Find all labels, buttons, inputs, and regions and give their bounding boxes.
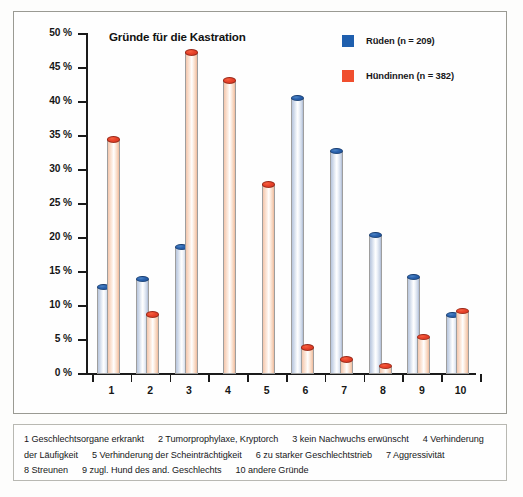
y-axis-tick (78, 67, 87, 69)
caption-item-7: 7 Aggressivität (386, 450, 444, 460)
y-axis-tick (78, 33, 87, 35)
bar-top-cap (107, 136, 120, 143)
bar-body (223, 80, 236, 374)
caption-item-4: 4 Verhinderung (423, 434, 484, 444)
x-axis-tick (92, 374, 94, 382)
caption-line-3: 8 Streunen9 zugl. Hund des and. Geschlec… (24, 463, 496, 479)
x-axis-label: 1 (96, 384, 126, 396)
legend-label-hundinnen: Hündinnen (n = 382) (366, 70, 454, 81)
caption-line-1: 1 Geschlechtsorgane erkrankt2 Tumorproph… (24, 432, 496, 448)
bar-blue-8 (369, 232, 382, 374)
y-axis-label: 20 % (26, 231, 72, 242)
caption-item-1: 1 Geschlechtsorgane erkrankt (24, 434, 144, 444)
x-axis-tick (364, 374, 366, 382)
bar-top-cap (340, 356, 353, 363)
bar-top-cap (262, 181, 275, 188)
y-axis-label: 10 % (26, 299, 72, 310)
y-axis-label: 15 % (26, 265, 72, 276)
y-axis-tick (78, 339, 87, 341)
bar-body (146, 314, 159, 374)
bar-top-cap (136, 276, 149, 283)
bar-body (330, 151, 343, 374)
y-axis-label: 50 % (26, 27, 72, 38)
chart-title: Gründe für die Kastration (109, 30, 246, 43)
bar-body (107, 139, 120, 374)
bar-red-9 (417, 334, 430, 374)
caption-box: 1 Geschlechtsorgane erkrankt2 Tumorproph… (13, 424, 507, 481)
bar-red-5 (262, 181, 275, 374)
bar-body (291, 98, 304, 374)
bar-body (369, 235, 382, 374)
caption-line-2: der Läufigkeit5 Verhinderung der Scheint… (24, 448, 496, 464)
y-axis-tick (78, 271, 87, 273)
bar-red-3 (185, 49, 198, 374)
x-axis-tick (325, 374, 327, 382)
legend-label-ruden: Rüden (n = 209) (366, 35, 435, 46)
bar-top-cap (301, 344, 314, 351)
bar-body (456, 311, 469, 374)
bar-red-2 (146, 311, 159, 374)
x-axis-tick (170, 374, 172, 382)
y-axis-label: 5 % (26, 333, 72, 344)
x-axis-tick (441, 374, 443, 382)
bar-body (301, 347, 314, 374)
legend-swatch-ruden (342, 35, 354, 47)
y-axis-tick (78, 101, 87, 103)
x-axis-label: 8 (368, 384, 398, 396)
bar-body (262, 184, 275, 374)
x-axis-label: 5 (252, 384, 282, 396)
y-axis-label: 30 % (26, 163, 72, 174)
x-axis-tick (131, 374, 133, 382)
plot-area: Gründe für die Kastration 0 %5 %10 %15 %… (14, 12, 508, 415)
bar-top-cap (146, 311, 159, 318)
bar-top-cap (223, 77, 236, 84)
bar-blue-6 (291, 95, 304, 374)
bar-body (185, 52, 198, 374)
y-axis-label: 25 % (26, 197, 72, 208)
bar-red-8 (379, 363, 392, 374)
x-axis-label: 10 (446, 384, 476, 396)
y-axis-tick (78, 373, 87, 375)
caption-item-6: 6 zu starker Geschlechtstrieb (256, 450, 372, 460)
y-axis-tick (78, 203, 87, 205)
y-axis-label: 0 % (26, 367, 72, 378)
caption-item-10: 10 andere Gründe (235, 465, 308, 475)
legend-item-hundinnen: Hündinnen (n = 382) (342, 69, 454, 82)
y-axis-tick (78, 169, 87, 171)
y-axis-label: 40 % (26, 95, 72, 106)
x-axis-label: 7 (329, 384, 359, 396)
y-axis-label: 45 % (26, 61, 72, 72)
caption-item-3: 3 kein Nachwuchs erwünscht (292, 434, 408, 444)
caption-item-2: 2 Tumorprophylaxe, Kryptorch (158, 434, 278, 444)
y-axis-label: 35 % (26, 129, 72, 140)
bar-red-4 (223, 77, 236, 374)
bar-red-7 (340, 356, 353, 374)
bar-red-10 (456, 308, 469, 374)
caption-item-9: 9 zugl. Hund des and. Geschlechts (82, 465, 221, 475)
legend-item-ruden: Rüden (n = 209) (342, 34, 454, 47)
bar-blue-7 (330, 148, 343, 374)
x-axis-tick (286, 374, 288, 382)
chart-page: Gründe für die Kastration 0 %5 %10 %15 %… (0, 0, 523, 497)
bar-top-cap (369, 232, 382, 239)
caption-item-4-cont: der Läufigkeit (24, 450, 78, 460)
x-axis-label: 2 (135, 384, 165, 396)
y-axis-tick (78, 135, 87, 137)
x-axis-tick (247, 374, 249, 382)
bar-red-1 (107, 136, 120, 374)
x-axis-tick (402, 374, 404, 382)
legend-swatch-hundinnen (342, 70, 354, 82)
x-axis-label: 6 (290, 384, 320, 396)
x-axis-label: 4 (213, 384, 243, 396)
bar-top-cap (185, 49, 198, 56)
caption-item-8: 8 Streunen (24, 465, 68, 475)
x-axis-label: 3 (174, 384, 204, 396)
caption-item-5: 5 Verhinderung der Scheinträchtigkeit (92, 450, 242, 460)
legend: Rüden (n = 209) Hündinnen (n = 382) (342, 34, 454, 104)
x-axis-tick (208, 374, 210, 382)
bar-body (417, 337, 430, 374)
x-axis-label: 9 (407, 384, 437, 396)
bar-red-6 (301, 344, 314, 374)
bar-top-cap (379, 363, 392, 370)
chart-panel: Gründe für die Kastration 0 %5 %10 %15 %… (13, 11, 507, 414)
